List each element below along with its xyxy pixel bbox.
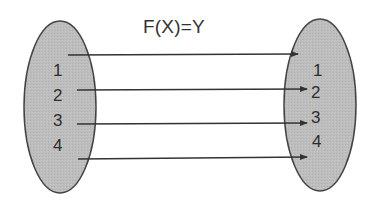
codomain-item-2: 2 [311,84,320,101]
domain-item-2: 2 [53,87,62,104]
mapping-arrow-4 [78,157,307,159]
mapping-arrow-1 [68,54,298,55]
codomain-item-4: 4 [312,133,321,150]
mapping-arrow-2 [77,89,307,90]
domain-item-1: 1 [53,62,62,79]
domain-item-3: 3 [53,112,62,129]
codomain-item-3: 3 [311,109,320,126]
domain-set-ellipse [24,21,96,193]
function-mapping-diagram: F(X)=Y 1 2 3 4 1 2 3 4 [0,0,375,203]
codomain-item-1: 1 [313,62,322,79]
codomain-set-ellipse [284,19,356,191]
function-title: F(X)=Y [143,16,205,38]
mapping-arrow-3 [77,123,307,124]
domain-item-4: 4 [53,137,62,154]
